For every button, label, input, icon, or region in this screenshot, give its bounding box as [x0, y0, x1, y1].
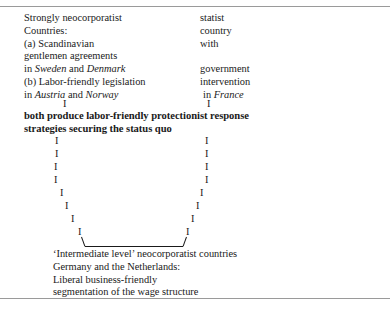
connector-tick-left-3: I	[54, 162, 57, 172]
connector-tick-left-upper: I	[63, 99, 66, 109]
country-austria: Austria	[35, 89, 66, 100]
statement-line-2: strategies securing the status quo	[24, 123, 172, 136]
left-branch-line-7: in Austria and Norway	[24, 89, 118, 102]
country-denmark: Denmark	[87, 63, 126, 74]
diagram-figure: Strongly neocorporatist Countries: (a) S…	[0, 0, 390, 311]
outcome-line-3: Liberal business-friendly	[53, 274, 157, 287]
connector-tick-left-5: I	[60, 188, 63, 198]
connector-tick-right-7: I	[191, 214, 194, 224]
country-france: France	[214, 89, 244, 100]
country-sweden: Sweden	[35, 63, 67, 74]
connector-tick-right-5: I	[200, 188, 203, 198]
left-branch-line-7-conjunction: and	[65, 89, 85, 100]
outcome-line-2: Germany and the Netherlands:	[53, 261, 180, 274]
outcome-line-1: ‘Intermediate level’ neocorporatist coun…	[53, 248, 237, 261]
right-branch-line-5: intervention	[200, 76, 250, 89]
connector-tick-right-1: I	[205, 136, 208, 146]
right-branch-line-4: government	[200, 63, 250, 76]
connector-tick-left-7: I	[71, 214, 74, 224]
statement-line-1: both produce labor-friendly protectionis…	[24, 110, 249, 123]
left-branch-line-4: gentlemen agreements	[24, 50, 117, 63]
connector-tick-right-4: I	[205, 175, 208, 185]
connector-tick-left-2: I	[55, 149, 58, 159]
left-branch-line-5-conjunction: and	[66, 63, 86, 74]
left-branch-line-2: Countries:	[24, 25, 67, 38]
connector-tick-right-3: I	[205, 162, 208, 172]
connector-tick-right-8: I	[186, 227, 189, 237]
bracket-horizontal-stroke	[85, 246, 183, 247]
left-branch-line-3: (a) Scandinavian	[24, 38, 94, 51]
outcome-line-4: segmentation of the wage structure	[53, 286, 198, 299]
left-branch-line-7-prefix: in	[24, 89, 35, 100]
connector-tick-left-1: I	[55, 136, 58, 146]
right-branch-line-3: with	[200, 38, 218, 51]
connector-tick-left-6: I	[65, 201, 68, 211]
country-norway: Norway	[86, 89, 119, 100]
right-branch-line-1: statist	[200, 12, 224, 25]
left-branch-line-6: (b) Labor-friendly legislation	[24, 76, 146, 89]
left-branch-line-5: in Sweden and Denmark	[24, 63, 125, 76]
bracket-right-stroke	[183, 237, 187, 247]
connector-tick-right-6: I	[196, 201, 199, 211]
connector-tick-left-4: I	[54, 175, 57, 185]
top-rule	[0, 6, 390, 7]
connector-tick-right-upper: I	[207, 99, 210, 109]
connector-tick-left-8: I	[78, 227, 81, 237]
right-branch-line-2: country	[200, 25, 232, 38]
connector-tick-right-2: I	[205, 149, 208, 159]
left-branch-line-1: Strongly neocorporatist	[24, 12, 122, 25]
left-branch-line-5-prefix: in	[24, 63, 35, 74]
